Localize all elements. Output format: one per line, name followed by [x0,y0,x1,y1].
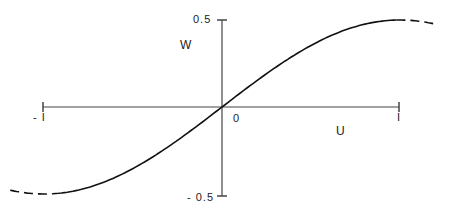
curve-dashed-left [10,190,53,194]
x-tick-label-left: - I [33,111,46,123]
origin-label: 0 [233,112,240,124]
chart-canvas [0,0,451,216]
x-tick-label-right: I [397,111,401,123]
y-tick-label-bottom: - 0.5 [187,191,214,203]
x-axis-label: U [336,124,346,138]
y-axis-label: W [180,38,192,52]
y-tick-label-top: 0.5 [193,13,211,25]
curve-dashed-right [396,20,433,24]
